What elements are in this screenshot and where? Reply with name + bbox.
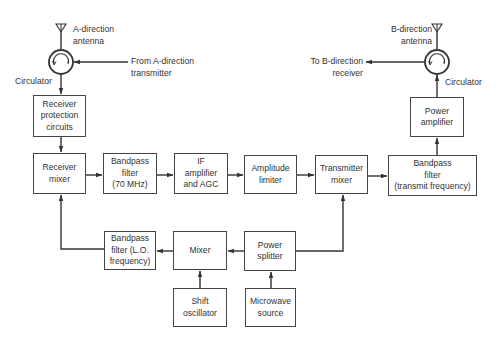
bandpass-70mhz-block: Bandpass filter (70 MHz) (103, 153, 157, 194)
a-circulator-icon (49, 50, 73, 74)
transmitter-mixer-block: Transmitter mixer (315, 155, 368, 194)
b-antenna-label: B-direction antenna (382, 24, 432, 47)
power-splitter-block: Power splitter (244, 231, 296, 271)
microwave-source-block: Microwave source (245, 288, 296, 327)
if-amplifier-block: IF amplifier and AGC (174, 153, 228, 194)
receiver-protection-block: Receiver protection circuits (33, 95, 86, 137)
b-antenna-icon (432, 24, 442, 50)
power-amplifier-block: Power amplifier (410, 97, 464, 137)
bandpass-lo-block: Bandpass filter (L.O. frequency) (104, 231, 156, 270)
shift-oscillator-block: Shift oscillator (173, 288, 227, 327)
a-antenna-icon (56, 24, 66, 50)
b-circulator-icon (425, 50, 449, 74)
mixer-block: Mixer (173, 231, 227, 270)
b-circulator-label: Circulator (445, 77, 482, 89)
receiver-mixer-block: Receiver mixer (33, 153, 86, 194)
b-to-receiver-label: To B-direction receiver (300, 56, 363, 79)
a-antenna-label: A-direction antenna (73, 24, 114, 47)
a-circulator-label: Circulator (15, 76, 52, 88)
amplitude-limiter-block: Amplitude limiter (244, 155, 297, 194)
bandpass-transmit-block: Bandpass filter (transmit frequency) (388, 155, 477, 196)
a-from-transmitter-label: From A-direction transmitter (131, 56, 194, 79)
